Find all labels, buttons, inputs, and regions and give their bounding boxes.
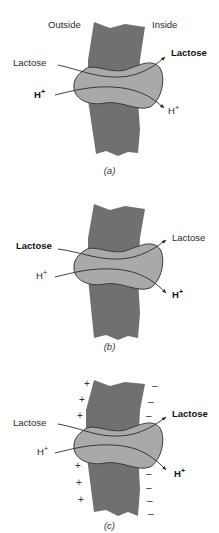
membrane-diagram-b [0,178,219,350]
panel-a: Outside Inside Lactose H+ Lactose H+ (a) [0,0,219,178]
lactose-inside-label: Lactose [172,408,208,419]
negative-charge: – [148,396,154,407]
negative-charge: – [146,410,152,421]
lactose-inside-label: Lactose [171,47,207,58]
membrane-diagram-c [0,350,219,533]
membrane-diagram-a [0,0,219,178]
proton-outside-label: H+ [36,269,47,281]
negative-charge: – [148,508,154,519]
negative-charge: – [147,495,153,506]
positive-charge: + [76,477,82,488]
negative-charge: – [146,482,152,493]
lactose-outside-label: Lactose [16,240,52,251]
positive-charge: + [84,378,90,389]
lactose-outside-label: Lactose [13,57,46,68]
caption-a: (a) [0,165,219,176]
negative-charge: – [146,468,152,479]
positive-charge: + [79,394,85,405]
lactose-inside-label: Lactose [172,232,205,243]
positive-charge: + [78,494,84,505]
proton-inside-label: H+ [172,288,183,300]
lactose-outside-label: Lactose [13,417,46,428]
positive-charge: + [77,410,83,421]
proton-inside-label: H+ [174,467,185,479]
inside-label: Inside [152,19,177,30]
proton-outside-label: H+ [37,445,48,457]
panel-b: Lactose H+ Lactose H+ (b) [0,178,219,350]
proton-outside-label: H+ [34,88,45,100]
negative-charge: – [152,380,158,391]
positive-charge: + [75,460,81,471]
panel-c: Lactose H+ Lactose H+ + + + + + + – – – … [0,350,219,533]
caption-c: (c) [0,520,219,531]
proton-inside-label: H+ [168,104,179,116]
outside-label: Outside [48,19,81,30]
